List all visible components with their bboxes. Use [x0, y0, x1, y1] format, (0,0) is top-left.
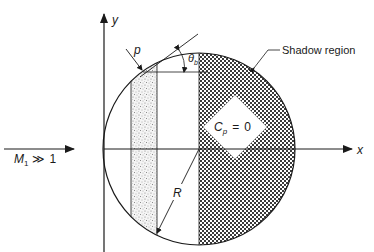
theta-b-label: θb: [188, 52, 198, 66]
point-p-label: p: [133, 43, 141, 57]
freestream-label: M1≫1: [14, 152, 56, 168]
radius-label: R: [173, 186, 182, 200]
cp-zero-label: Cp=0: [214, 120, 251, 136]
cylinder-diagram: y x M1≫1 θb p R Shadow region Cp=0: [0, 0, 374, 252]
x-axis-label: x: [356, 143, 364, 157]
y-axis-label: y: [111, 13, 119, 27]
angle-arc: [179, 50, 184, 72]
shadow-region-label: Shadow region: [282, 44, 355, 56]
shadow-region: [199, 50, 299, 250]
shadow-leader: [254, 50, 280, 68]
